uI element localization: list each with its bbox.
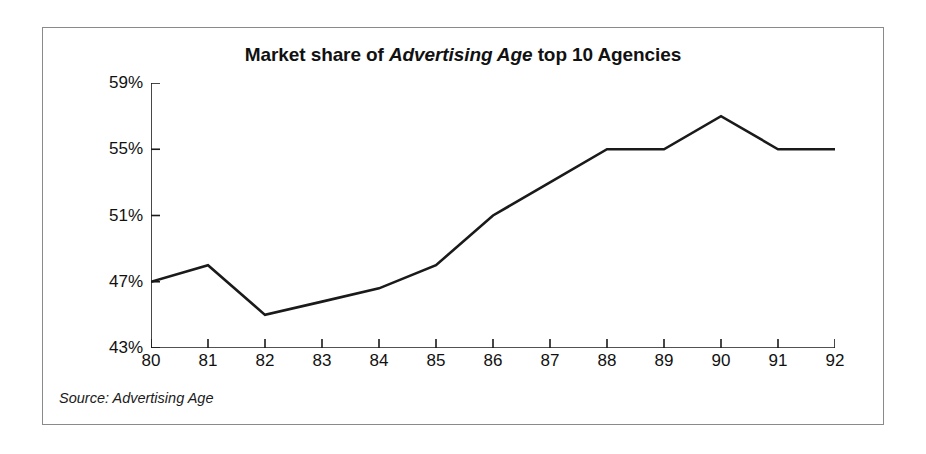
data-series-group [151,116,835,315]
chart-axes-svg [151,83,835,348]
y-axis-ticks [151,83,160,348]
x-axis-tick-labels: 80818283848586878889909192 [151,351,835,379]
y-axis-tick-label: 47% [109,272,143,292]
title-suffix: top 10 Agencies [532,44,681,65]
x-axis-ticks [151,339,835,348]
title-prefix: Market share of [245,44,389,65]
x-axis-tick-label: 83 [313,351,332,371]
x-axis-tick-label: 84 [370,351,389,371]
x-axis-tick-label: 91 [769,351,788,371]
page-title: Market share of Advertising Age top 10 A… [43,44,883,66]
x-axis-tick-label: 86 [484,351,503,371]
x-axis-tick-label: 90 [712,351,731,371]
source-note: Source: Advertising Age [59,390,213,406]
x-axis-tick-label: 81 [199,351,218,371]
y-axis-tick-label: 55% [109,139,143,159]
chart-figure-frame: Market share of Advertising Age top 10 A… [42,27,884,425]
x-axis-tick-label: 87 [541,351,560,371]
y-axis-tick-label: 59% [109,73,143,93]
x-axis-tick-label: 82 [256,351,275,371]
y-axis-tick-label: 43% [109,338,143,358]
x-axis-tick-label: 88 [598,351,617,371]
x-axis-tick-label: 89 [655,351,674,371]
title-emphasis: Advertising Age [389,44,533,65]
y-axis-tick-labels: 43%47%51%55%59% [95,83,143,348]
x-axis-tick-label: 80 [142,351,161,371]
x-axis-tick-label: 85 [427,351,446,371]
plot-area: 43%47%51%55%59% 808182838485868788899091… [95,83,835,348]
y-axis-tick-label: 51% [109,206,143,226]
x-axis-tick-label: 92 [826,351,845,371]
